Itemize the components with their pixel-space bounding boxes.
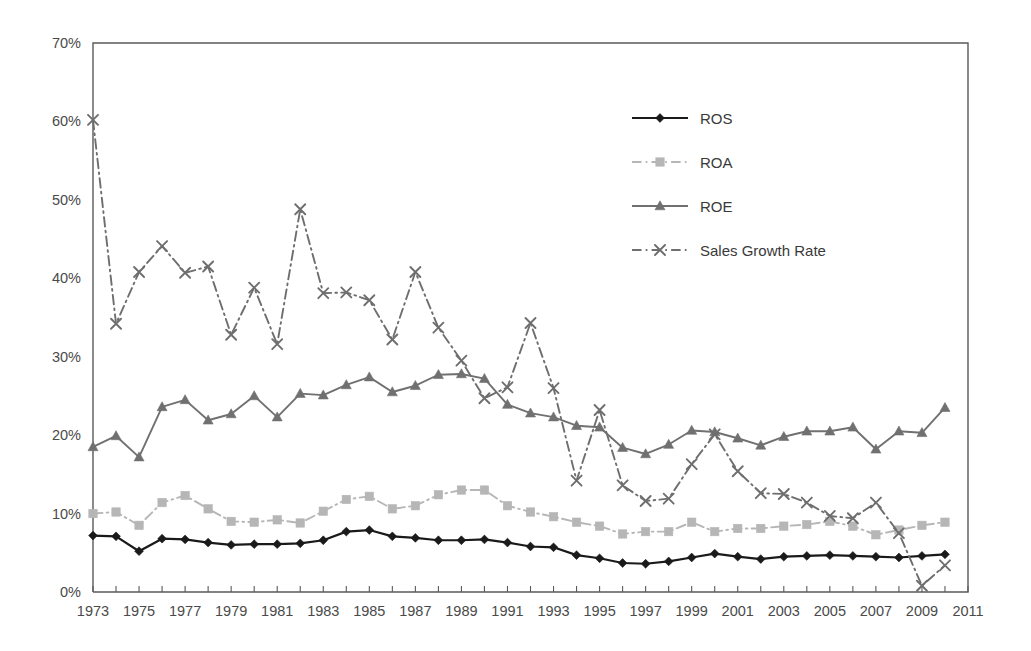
data-point-marker xyxy=(526,508,534,516)
x-tick-label: 2001 xyxy=(722,603,754,619)
x-tick-label: 1997 xyxy=(629,603,661,619)
data-point-marker xyxy=(411,502,419,510)
data-point-marker xyxy=(641,527,649,535)
y-tick-label: 60% xyxy=(52,113,81,129)
data-point-marker xyxy=(480,486,488,494)
x-tick-label: 1989 xyxy=(445,603,477,619)
x-tick-label: 1973 xyxy=(77,603,109,619)
legend-label: ROS xyxy=(700,110,733,127)
x-tick-label: 1987 xyxy=(399,603,431,619)
x-tick-label: 1981 xyxy=(261,603,293,619)
x-tick-label: 1993 xyxy=(537,603,569,619)
data-point-marker xyxy=(89,509,97,517)
data-point-marker xyxy=(849,522,857,530)
data-point-marker xyxy=(135,521,143,529)
x-tick-label: 1975 xyxy=(123,603,155,619)
data-point-marker xyxy=(872,531,880,539)
x-tick-label: 2005 xyxy=(814,603,846,619)
data-point-marker xyxy=(457,486,465,494)
data-point-marker xyxy=(388,505,396,513)
data-point-marker xyxy=(734,524,742,532)
data-point-marker xyxy=(780,522,788,530)
y-tick-label: 10% xyxy=(52,506,81,522)
legend-label: ROA xyxy=(700,154,733,171)
data-point-marker xyxy=(250,518,258,526)
data-point-marker xyxy=(549,513,557,521)
y-tick-label: 50% xyxy=(52,192,81,208)
data-point-marker xyxy=(434,491,442,499)
data-point-marker xyxy=(158,498,166,506)
y-tick-label: 30% xyxy=(52,349,81,365)
data-point-marker xyxy=(112,508,120,516)
legend-label: ROE xyxy=(700,198,733,215)
x-tick-label: 2009 xyxy=(906,603,938,619)
y-tick-label: 20% xyxy=(52,427,81,443)
x-tick-label: 1983 xyxy=(307,603,339,619)
y-tick-label: 0% xyxy=(60,584,81,600)
data-point-marker xyxy=(365,492,373,500)
data-point-marker xyxy=(664,527,672,535)
data-point-marker xyxy=(319,507,327,515)
x-tick-label: 2011 xyxy=(952,603,983,619)
data-point-marker xyxy=(595,522,603,530)
x-tick-label: 1991 xyxy=(491,603,523,619)
x-tick-label: 1977 xyxy=(169,603,201,619)
chart-container: 0%10%20%30%40%50%60%70% 1973197519771979… xyxy=(0,0,1031,651)
data-point-marker xyxy=(711,527,719,535)
data-point-marker xyxy=(181,491,189,499)
x-tick-label: 2007 xyxy=(860,603,892,619)
data-point-marker xyxy=(941,518,949,526)
data-point-marker xyxy=(227,517,235,525)
data-point-marker xyxy=(757,524,765,532)
x-tick-label: 1979 xyxy=(215,603,247,619)
data-point-marker xyxy=(342,495,350,503)
y-tick-label: 40% xyxy=(52,270,81,286)
data-point-marker xyxy=(503,502,511,510)
data-point-marker xyxy=(687,518,695,526)
y-tick-label: 70% xyxy=(52,35,81,51)
legend-label: Sales Growth Rate xyxy=(700,242,826,259)
x-tick-label: 1995 xyxy=(583,603,615,619)
data-point-marker xyxy=(803,520,811,528)
data-point-marker xyxy=(918,521,926,529)
x-tick-label: 1985 xyxy=(353,603,385,619)
line-chart: 0%10%20%30%40%50%60%70% 1973197519771979… xyxy=(0,0,1031,651)
data-point-marker xyxy=(572,518,580,526)
data-point-marker xyxy=(618,530,626,538)
data-point-marker xyxy=(656,158,664,166)
x-tick-label: 1999 xyxy=(676,603,708,619)
x-tick-label: 2003 xyxy=(768,603,800,619)
data-point-marker xyxy=(273,516,281,524)
data-point-marker xyxy=(204,505,212,513)
data-point-marker xyxy=(296,519,304,527)
